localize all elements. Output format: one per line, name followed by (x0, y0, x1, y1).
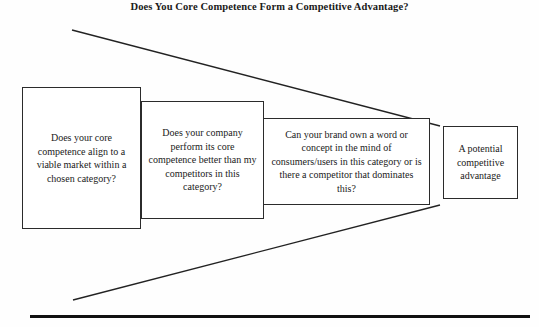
baseline-divider (30, 315, 530, 318)
funnel-stage-2[interactable]: Does your company perform its core compe… (141, 101, 264, 219)
funnel-stage-1-label: Does your core competence align to a via… (23, 131, 140, 185)
funnel-stage-4-outcome[interactable]: A potential competitive advantage (443, 126, 518, 199)
funnel-stage-4-label: A potential competitive advantage (444, 142, 517, 183)
diagram-canvas: Does You Core Competence Form a Competit… (0, 0, 539, 327)
funnel-stage-3-label: Can your brand own a word or concept in … (264, 128, 429, 196)
page-title: Does You Core Competence Form a Competit… (0, 1, 539, 12)
funnel-stage-2-label: Does your company perform its core compe… (142, 126, 263, 194)
funnel-stage-3[interactable]: Can your brand own a word or concept in … (263, 118, 430, 205)
funnel-stage-1[interactable]: Does your core competence align to a via… (22, 87, 141, 229)
